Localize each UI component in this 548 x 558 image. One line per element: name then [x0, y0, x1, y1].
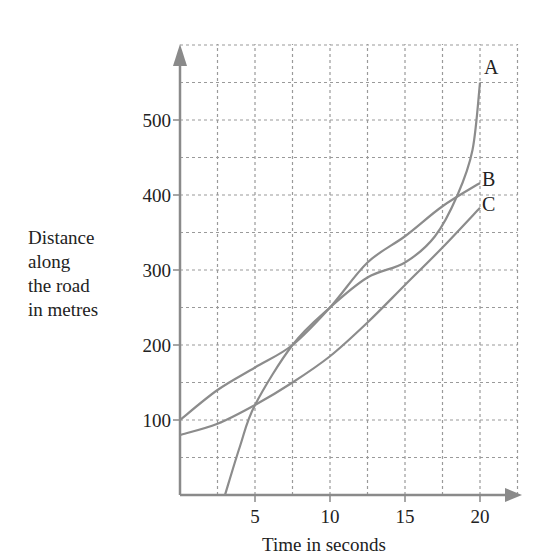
y-axis-arrow-icon	[173, 44, 187, 66]
x-axis-label: Time in seconds	[262, 534, 386, 556]
x-tick-label: 20	[471, 506, 490, 527]
y-axis-label: Distance along the road in metres	[28, 226, 178, 322]
y-axis-label-line: in metres	[28, 298, 178, 322]
series-label-c: C	[482, 193, 495, 215]
y-tick-label: 400	[143, 185, 172, 206]
y-tick-label: 500	[143, 110, 172, 131]
x-axis-arrow-icon	[505, 488, 522, 502]
series-label-a: A	[484, 56, 499, 78]
x-tick-label: 10	[321, 506, 340, 527]
series-curve-a	[225, 83, 480, 496]
y-axis-label-line: the road	[28, 274, 178, 298]
x-tick-label: 5	[250, 506, 260, 527]
y-tick-label: 100	[143, 410, 172, 431]
series-label-b: B	[482, 168, 495, 190]
y-tick-label: 200	[143, 335, 172, 356]
y-axis-label-line: along	[28, 250, 178, 274]
y-axis-label-line: Distance	[28, 226, 178, 250]
x-tick-label: 15	[396, 506, 415, 527]
